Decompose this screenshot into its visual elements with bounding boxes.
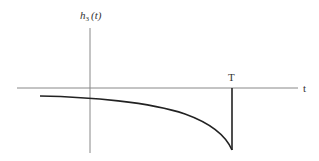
response-curve — [40, 96, 232, 150]
y-axis-label: h3(t) — [80, 9, 102, 23]
T-marker-label: T — [228, 71, 235, 83]
x-axis-label: t — [303, 82, 306, 94]
impulse-response-diagram: h3(t) t T — [0, 0, 319, 161]
